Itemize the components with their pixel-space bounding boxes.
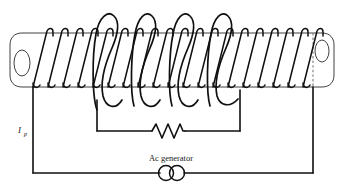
primary-current-subscript: p [23,130,27,137]
ac-generator-label: Ac generator [149,153,193,163]
resistor [152,124,185,138]
generator-circle-right [170,166,185,181]
ac-generator-symbol [159,166,185,181]
secondary-circuit [97,90,240,138]
circuit-diagram-svg: I p Ac generator [0,0,343,191]
core-left-ellipse [14,50,30,76]
primary-current-label: I [17,125,22,135]
figure-canvas: I p Ac generator [0,0,343,191]
core-right-ellipse [315,40,329,62]
